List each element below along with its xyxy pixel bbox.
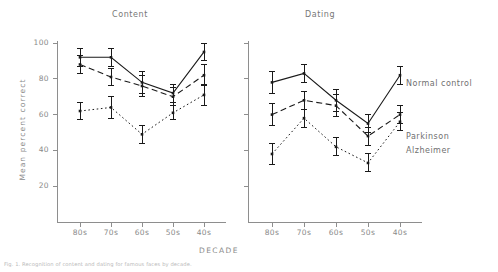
x-tick-label: 80s xyxy=(259,228,285,237)
x-tick-label: 70s xyxy=(98,228,124,237)
figure: Content Dating Mean percent correct DECA… xyxy=(0,0,498,272)
legend-item-normal-control: Normal control xyxy=(406,79,472,88)
y-tick-label: 80 xyxy=(29,74,49,83)
x-tick-label: 50s xyxy=(355,228,381,237)
x-tick-label: 60s xyxy=(323,228,349,237)
x-tick-label: 70s xyxy=(291,228,317,237)
y-axis-label: Mean percent correct xyxy=(18,75,27,185)
x-tick-label: 40s xyxy=(191,228,217,237)
panel-title-content: Content xyxy=(112,10,148,19)
x-tick-label: 80s xyxy=(67,228,93,237)
x-tick-label: 60s xyxy=(129,228,155,237)
y-tick-label: 60 xyxy=(29,110,49,119)
y-tick-label: 40 xyxy=(29,145,49,154)
legend-item-alzheimer: Alzheimer xyxy=(406,146,451,155)
y-tick-label: 20 xyxy=(29,181,49,190)
panel-title-dating: Dating xyxy=(305,10,335,19)
x-axis-label: DECADE xyxy=(199,246,239,255)
x-tick-label: 50s xyxy=(160,228,186,237)
figure-caption: Fig. 1. Recognition of content and datin… xyxy=(4,261,192,267)
legend-item-parkinson: Parkinson xyxy=(406,132,449,141)
x-tick-label: 40s xyxy=(387,228,413,237)
y-tick-label: 100 xyxy=(29,38,49,47)
